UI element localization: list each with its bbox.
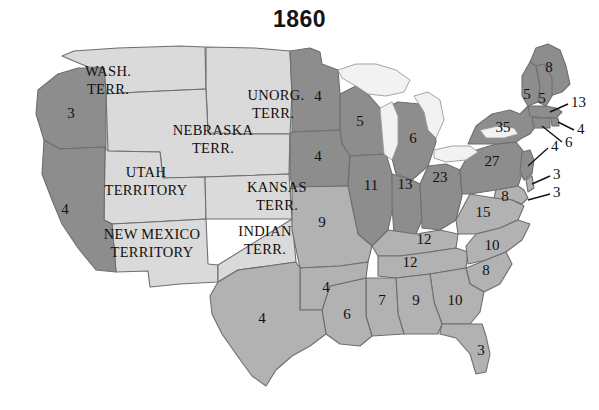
leader-delaware <box>532 176 550 184</box>
us-map-svg: 3 4 4 5 4 6 11 13 23 27 35 8 5 5 8 15 12… <box>0 34 599 410</box>
label-washington-territory-line1: WASH. <box>85 63 131 79</box>
label-utah-territory-line2: TERRITORY <box>105 182 188 198</box>
ev-label-florida: 3 <box>477 342 485 358</box>
callout-maryland-small: 3 <box>553 184 561 200</box>
ev-label-missouri: 9 <box>318 214 326 230</box>
label-kansas-territory-line1: KANSAS <box>247 179 307 195</box>
ev-label-pennsylvania: 27 <box>485 153 501 169</box>
label-indian-territory-line1: INDIAN <box>238 223 292 239</box>
map-canvas: 3 4 4 5 4 6 11 13 23 27 35 8 5 5 8 15 12… <box>0 34 599 410</box>
ev-label-arkansas: 4 <box>322 279 330 295</box>
ev-label-indiana: 13 <box>398 176 413 192</box>
label-indian-territory-line2: TERR. <box>244 241 286 257</box>
leader-rhode-island <box>558 122 574 130</box>
ev-label-texas: 4 <box>258 310 266 326</box>
electoral-map-figure: 1860 <box>0 0 599 410</box>
label-new-mexico-territory-line2: TERRITORY <box>111 244 194 260</box>
label-nebraska-territory-line1: NEBRASKA <box>173 122 254 138</box>
callout-new-jersey: 4 <box>551 138 559 154</box>
ev-label-new-hampshire: 5 <box>538 90 546 106</box>
label-unorganized-territory-line2: TERR. <box>252 105 294 121</box>
leader-maryland-small <box>528 194 550 200</box>
callout-connecticut: 6 <box>565 134 573 150</box>
ev-label-mississippi: 7 <box>378 292 386 308</box>
label-kansas-territory-line2: TERR. <box>256 197 298 213</box>
callout-delaware: 3 <box>553 166 561 182</box>
callout-massachusetts: 13 <box>571 94 586 110</box>
label-utah-territory-line1: UTAH <box>126 164 167 180</box>
ev-label-michigan: 6 <box>409 130 417 146</box>
ev-label-kentucky: 12 <box>417 231 432 247</box>
region-connecticut[interactable] <box>532 118 550 128</box>
region-rhode-island[interactable] <box>551 118 559 126</box>
ev-label-wisconsin: 5 <box>356 113 364 129</box>
label-washington-territory-line2: TERR. <box>87 81 129 97</box>
label-new-mexico-territory-line1: NEW MEXICO <box>104 226 201 242</box>
label-nebraska-territory-line2: TERR. <box>192 140 234 156</box>
ev-label-north-carolina: 10 <box>485 237 500 253</box>
callout-rhode-island: 4 <box>577 121 585 137</box>
ev-label-california: 4 <box>61 201 69 217</box>
ev-label-maine: 8 <box>545 59 553 75</box>
ev-label-tennessee: 12 <box>403 254 418 270</box>
region-massachusetts[interactable] <box>528 106 562 118</box>
label-unorganized-territory-line1: UNORG. <box>248 87 305 103</box>
ev-label-oregon: 3 <box>67 105 75 121</box>
ev-label-minnesota: 4 <box>314 88 322 104</box>
ev-label-ohio: 23 <box>433 169 448 185</box>
ev-label-alabama: 9 <box>412 292 420 308</box>
page-title: 1860 <box>0 6 599 33</box>
ev-label-virginia: 15 <box>476 204 491 220</box>
ev-label-vermont: 5 <box>523 86 531 102</box>
ev-label-iowa: 4 <box>314 148 322 164</box>
ev-label-south-carolina: 8 <box>482 262 490 278</box>
ev-label-new-york: 35 <box>496 119 511 135</box>
ev-label-louisiana: 6 <box>343 306 351 322</box>
ev-label-maryland: 8 <box>501 188 509 204</box>
ev-label-illinois: 11 <box>364 177 378 193</box>
ev-label-georgia: 10 <box>448 292 463 308</box>
